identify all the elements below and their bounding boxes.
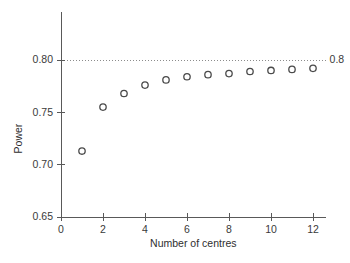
data-point-marker (184, 74, 190, 80)
x-axis-tick-label: 8 (226, 223, 232, 235)
x-axis-title: Number of centres (150, 237, 236, 249)
y-axis-title: Power (12, 123, 24, 153)
data-point-marker (121, 90, 127, 96)
data-point-marker (247, 68, 253, 74)
y-axis-tick-label: 0.70 (33, 158, 54, 170)
chart-plot-area: 0.80.650.700.750.80024681012Number of ce… (0, 0, 350, 263)
data-point-marker (226, 70, 232, 76)
reference-line-label: 0.8 (330, 53, 345, 65)
data-point-marker (289, 66, 295, 72)
y-axis-tick-label: 0.65 (33, 210, 54, 222)
x-axis-tick-label: 0 (58, 223, 64, 235)
data-point-marker (310, 65, 316, 71)
power-vs-centres-chart: 0.80.650.700.750.80024681012Number of ce… (0, 0, 350, 263)
x-axis-tick-label: 4 (142, 223, 148, 235)
data-point-marker (142, 82, 148, 88)
y-axis-tick-label: 0.75 (33, 106, 54, 118)
y-axis-tick-label: 0.80 (33, 53, 54, 65)
x-axis-tick-label: 2 (100, 223, 106, 235)
data-point-marker (268, 67, 274, 73)
data-point-marker (100, 104, 106, 110)
data-point-marker (205, 71, 211, 77)
x-axis-tick-label: 12 (307, 223, 319, 235)
data-point-marker (79, 148, 85, 154)
data-point-marker (163, 77, 169, 83)
x-axis-tick-label: 10 (265, 223, 277, 235)
x-axis-tick-label: 6 (184, 223, 190, 235)
